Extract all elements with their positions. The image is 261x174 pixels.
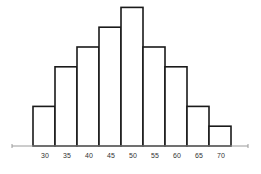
x-tick-label: 30 <box>41 152 49 159</box>
histogram-bar-35 <box>55 67 77 146</box>
x-tick-labels: 303540455055606570 <box>41 152 225 159</box>
x-tick-label: 50 <box>129 152 137 159</box>
histogram-bar-40 <box>77 47 99 146</box>
histogram-bar-55 <box>143 47 165 146</box>
x-tick-label: 45 <box>107 152 115 159</box>
histogram-bar-30 <box>33 106 55 146</box>
x-tick-label: 60 <box>173 152 181 159</box>
x-tick-label: 65 <box>195 152 203 159</box>
histogram-bar-65 <box>187 106 209 146</box>
x-tick-label: 70 <box>217 152 225 159</box>
x-tick-label: 40 <box>85 152 93 159</box>
histogram-bar-50 <box>121 7 143 146</box>
histogram-chart: 303540455055606570 <box>0 0 261 174</box>
histogram-bar-45 <box>99 27 121 146</box>
bars-group <box>33 7 231 146</box>
histogram-bar-60 <box>165 67 187 146</box>
x-tick-label: 35 <box>63 152 71 159</box>
histogram-bar-70 <box>209 126 231 146</box>
x-tick-label: 55 <box>151 152 159 159</box>
